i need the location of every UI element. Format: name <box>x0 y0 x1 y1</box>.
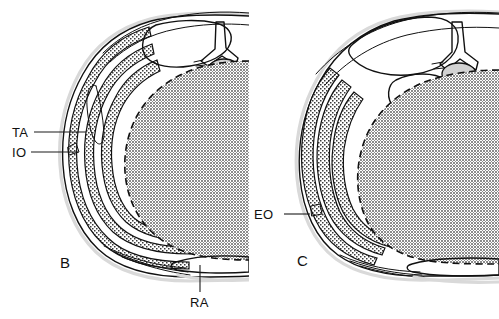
anatomy-figure: TA IO RA B EO C <box>0 0 499 319</box>
figure-canvas: TA IO RA B EO C <box>0 0 499 319</box>
label-eo: EO <box>254 207 273 222</box>
panel-letter-b: B <box>60 254 70 271</box>
panel-letter-c: C <box>297 252 308 269</box>
label-io: IO <box>12 145 26 160</box>
label-ta: TA <box>12 125 28 140</box>
label-ra: RA <box>190 295 209 310</box>
